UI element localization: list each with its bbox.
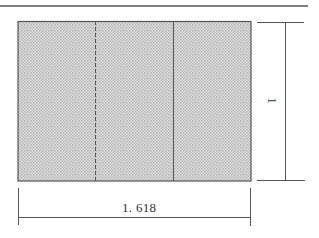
golden-rectangle [18,22,251,182]
height-label: 1 [266,97,279,104]
golden-rectangle-diagram [0,0,319,238]
width-label: 1. 618 [122,201,156,214]
